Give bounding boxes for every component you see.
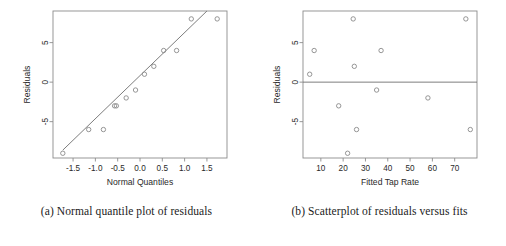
caption-panel-a: (a) Normal quantile plot of residuals [0, 205, 253, 217]
data-point [336, 104, 340, 108]
caption-panel-b: (b) Scatterplot of residuals versus fits [253, 205, 506, 217]
x-axis-tick-label: 70 [450, 164, 460, 173]
x-axis-tick-label: 10 [316, 164, 326, 173]
data-point [345, 151, 349, 155]
data-point [374, 88, 378, 92]
data-point [379, 48, 383, 52]
y-axis-tick-label: 0 [42, 79, 51, 84]
data-point [468, 127, 472, 131]
residuals-vs-fits-plot-canvas: 10203040506070-505Fitted Tap RateResidua… [253, 0, 506, 200]
data-point [124, 96, 128, 100]
x-axis-tick-label: 20 [339, 164, 349, 173]
data-point [61, 151, 65, 155]
x-axis-label: Normal Quantiles [107, 177, 173, 187]
data-point [464, 17, 468, 21]
y-axis-tick-label: 5 [42, 40, 51, 45]
x-axis-tick-label: 0.0 [134, 164, 146, 173]
y-axis-tick-label: 0 [292, 79, 301, 84]
data-point [351, 17, 355, 21]
x-axis-tick-label: 0.5 [157, 164, 169, 173]
plot-frame [53, 11, 227, 158]
data-point [189, 17, 193, 21]
x-axis-tick-label: 1.5 [201, 164, 213, 173]
data-point [312, 48, 316, 52]
data-point [174, 48, 178, 52]
data-point [133, 88, 137, 92]
reference-line [63, 11, 207, 150]
y-axis-tick-label: -5 [292, 118, 301, 126]
x-axis-tick-label: 40 [383, 164, 393, 173]
panel-normal-quantile-plot: -1.5-1.0-0.50.00.51.01.5-505Normal Quant… [0, 0, 253, 246]
x-axis-label: Fitted Tap Rate [361, 177, 419, 187]
x-axis-tick-label: -1.0 [88, 164, 103, 173]
figure-residual-diagnostics: -1.5-1.0-0.50.00.51.01.5-505Normal Quant… [0, 0, 506, 246]
y-axis-label: Residuals [22, 66, 32, 104]
x-axis-tick-label: 30 [361, 164, 371, 173]
x-axis-tick-label: 1.0 [179, 164, 191, 173]
data-point [426, 96, 430, 100]
data-point [215, 17, 219, 21]
x-axis-tick-label: 50 [406, 164, 416, 173]
y-axis-tick-label: -5 [42, 118, 51, 126]
data-point [142, 72, 146, 76]
data-point [354, 127, 358, 131]
plot-frame [303, 11, 477, 158]
data-point [86, 127, 90, 131]
data-point [307, 72, 311, 76]
normal-quantile-plot-canvas: -1.5-1.0-0.50.00.51.01.5-505Normal Quant… [0, 0, 253, 200]
y-axis-label: Residuals [272, 66, 282, 104]
x-axis-tick-label: -0.5 [111, 164, 126, 173]
data-point [161, 48, 165, 52]
data-point [352, 64, 356, 68]
data-point [101, 127, 105, 131]
data-point [152, 64, 156, 68]
y-axis-tick-label: 5 [292, 40, 301, 45]
panel-residuals-vs-fits-plot: 10203040506070-505Fitted Tap RateResidua… [253, 0, 506, 246]
x-axis-tick-label: 60 [428, 164, 438, 173]
x-axis-tick-label: -1.5 [66, 164, 81, 173]
